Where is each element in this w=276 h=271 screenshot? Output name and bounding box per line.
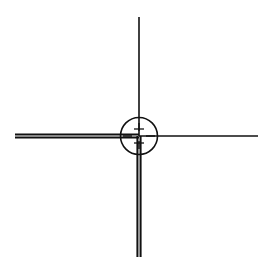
- crosshair-diagram: [0, 0, 276, 271]
- crosshair-figure-root: Crosshair Target Mark Technical survey /…: [0, 0, 276, 271]
